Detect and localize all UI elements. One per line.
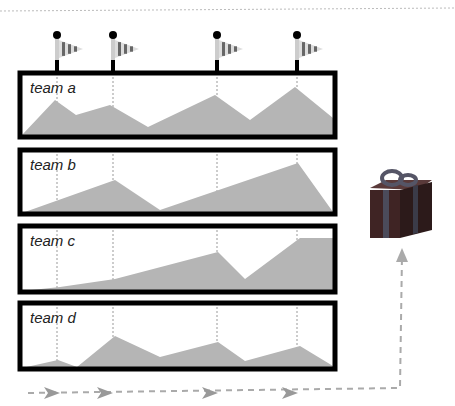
top-divider bbox=[0, 8, 455, 11]
gift-icon bbox=[370, 171, 432, 238]
arrow-right-icon bbox=[44, 387, 60, 399]
arrow-right-icon bbox=[202, 387, 218, 399]
flag-icon bbox=[53, 31, 83, 74]
team-label: team d bbox=[30, 309, 76, 326]
timeline-diagram bbox=[0, 0, 455, 406]
arrow-up-icon bbox=[396, 248, 408, 262]
team-label: team c bbox=[30, 232, 75, 249]
team-label: team a bbox=[30, 79, 76, 96]
flag-icon bbox=[293, 31, 323, 74]
flag-icon bbox=[109, 31, 139, 74]
flag-icon bbox=[213, 31, 243, 74]
team-label: team b bbox=[30, 156, 76, 173]
